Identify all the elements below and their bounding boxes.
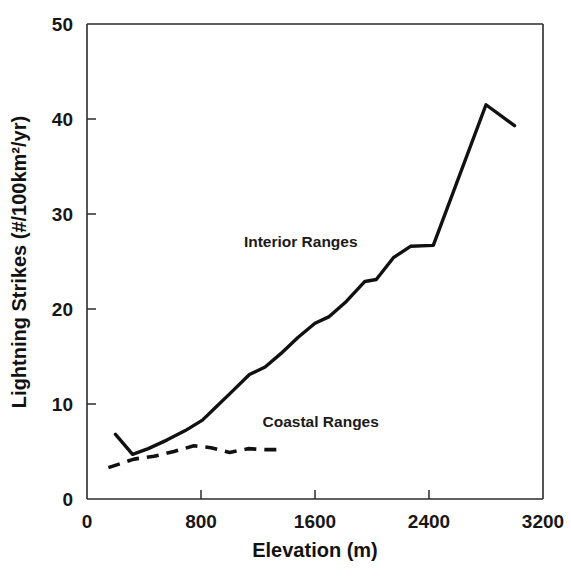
series-label-coastal-ranges: Coastal Ranges — [263, 413, 379, 430]
lightning-strikes-vs-elevation-chart: 01020304050 0800160024003200 Interior Ra… — [0, 0, 571, 583]
figure-container: 01020304050 0800160024003200 Interior Ra… — [0, 0, 571, 583]
y-tick-label-50: 50 — [52, 14, 73, 35]
series-annotation-group: Interior RangesCoastal Ranges — [244, 233, 379, 430]
y-axis-title: Lightning Strikes (#/100km²/yr) — [8, 116, 30, 408]
series-label-interior-ranges: Interior Ranges — [244, 233, 358, 250]
y-axis-ticks — [87, 119, 96, 404]
x-tick-label-2400: 2400 — [408, 511, 450, 532]
x-axis-tick-labels: 0800160024003200 — [82, 511, 564, 532]
x-axis-ticks — [201, 490, 429, 499]
y-tick-label-20: 20 — [52, 299, 73, 320]
x-tick-label-0: 0 — [82, 511, 93, 532]
series-line-coastal-ranges — [108, 446, 279, 468]
y-axis-tick-labels: 01020304050 — [52, 14, 73, 510]
y-tick-label-30: 30 — [52, 204, 73, 225]
y-tick-label-40: 40 — [52, 109, 73, 130]
y-tick-label-10: 10 — [52, 394, 73, 415]
y-tick-label-0: 0 — [62, 489, 73, 510]
series-line-interior-ranges — [116, 105, 515, 455]
caption-fragment — [6, 573, 306, 583]
x-tick-label-800: 800 — [185, 511, 217, 532]
x-tick-label-3200: 3200 — [522, 511, 564, 532]
x-tick-label-1600: 1600 — [294, 511, 336, 532]
x-axis-title: Elevation (m) — [252, 539, 378, 561]
